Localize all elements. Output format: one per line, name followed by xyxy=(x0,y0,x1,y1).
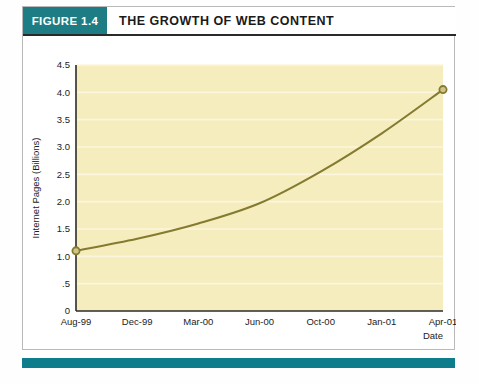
figure-caption-clipped xyxy=(22,371,455,384)
figure-header: FIGURE 1.4 THE GROWTH OF WEB CONTENT xyxy=(23,7,456,36)
x-tick-label: Oct-00 xyxy=(306,316,335,327)
y-tick-label: 0 xyxy=(65,305,70,316)
x-tick-label: Dec-99 xyxy=(122,316,153,327)
figure-title: THE GROWTH OF WEB CONTENT xyxy=(119,7,334,34)
y-axis-tick-labels: 0.51.01.52.02.53.03.54.04.5 xyxy=(57,59,70,316)
y-tick-label: 1.0 xyxy=(57,251,70,262)
y-tick-label: 2.5 xyxy=(57,169,70,180)
x-tick-label: Aug-99 xyxy=(61,316,92,327)
figure-card: FIGURE 1.4 THE GROWTH OF WEB CONTENT 0.5… xyxy=(22,6,455,350)
y-tick-label: 1.5 xyxy=(57,223,70,234)
y-tick-label: 3.5 xyxy=(57,114,70,125)
x-axis-title: Date xyxy=(423,330,443,341)
line-chart: 0.51.01.52.02.53.03.54.04.5 Aug-99Dec-99… xyxy=(23,36,456,349)
x-tick-label: Jan-01 xyxy=(367,316,396,327)
figure-number-label: FIGURE 1.4 xyxy=(32,15,99,27)
x-tick-label: Apr-01 xyxy=(429,316,456,327)
y-tick-label: .5 xyxy=(62,278,70,289)
x-tick-label: Mar-00 xyxy=(183,316,213,327)
figure-page: FIGURE 1.4 THE GROWTH OF WEB CONTENT 0.5… xyxy=(0,0,479,384)
y-tick-label: 3.0 xyxy=(57,141,70,152)
x-axis-tick-labels: Aug-99Dec-99Mar-00Jun-00Oct-00Jan-01Apr-… xyxy=(61,316,456,327)
chart-container: 0.51.01.52.02.53.03.54.04.5 Aug-99Dec-99… xyxy=(23,36,456,349)
figure-bottom-rule xyxy=(22,358,455,368)
plot-area-background xyxy=(76,65,443,311)
y-tick-label: 2.0 xyxy=(57,196,70,207)
y-axis-title: Internet Pages (Billions) xyxy=(30,138,41,239)
data-point-marker xyxy=(439,86,446,93)
y-tick-label: 4.0 xyxy=(57,87,70,98)
x-tick-label: Jun-00 xyxy=(245,316,274,327)
figure-number-badge: FIGURE 1.4 xyxy=(23,7,107,34)
data-point-marker xyxy=(72,247,79,254)
y-tick-label: 4.5 xyxy=(57,59,70,70)
